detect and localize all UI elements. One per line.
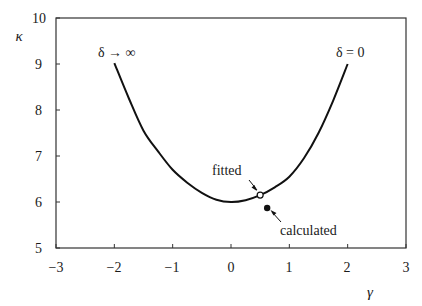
x-tick-label: 2 <box>344 260 351 275</box>
annotation-delta-infinity: δ → ∞ <box>98 45 136 60</box>
x-axis-ticks <box>56 244 406 248</box>
x-tick-label: −2 <box>107 260 122 275</box>
annotation-calculated: calculated <box>280 223 337 238</box>
y-axis-label: κ <box>15 28 23 44</box>
x-axis-label: γ <box>367 284 374 300</box>
x-tick-labels: −3 −2 −1 0 1 2 3 <box>49 260 410 275</box>
x-tick-label: 0 <box>228 260 235 275</box>
y-tick-label: 8 <box>35 103 42 118</box>
fitted-point <box>257 192 263 198</box>
y-tick-label: 10 <box>32 11 46 26</box>
y-tick-label: 6 <box>35 195 42 210</box>
x-tick-label: −3 <box>49 260 64 275</box>
x-tick-label: 3 <box>403 260 410 275</box>
x-tick-label: 1 <box>286 260 293 275</box>
chart: −3 −2 −1 0 1 2 3 5 6 7 8 9 10 γ κ δ → ∞ … <box>0 0 422 306</box>
arrow-calculated <box>271 210 282 222</box>
calculated-point <box>264 205 270 211</box>
kappa-gamma-curve <box>114 63 347 202</box>
y-tick-label: 9 <box>35 57 42 72</box>
y-tick-labels: 5 6 7 8 9 10 <box>32 11 46 256</box>
y-tick-label: 7 <box>35 149 42 164</box>
y-tick-label: 5 <box>35 241 42 256</box>
x-tick-label: −1 <box>165 260 180 275</box>
annotation-delta-zero: δ = 0 <box>336 45 365 60</box>
arrow-fitted <box>249 180 257 191</box>
annotation-fitted: fitted <box>212 163 242 178</box>
